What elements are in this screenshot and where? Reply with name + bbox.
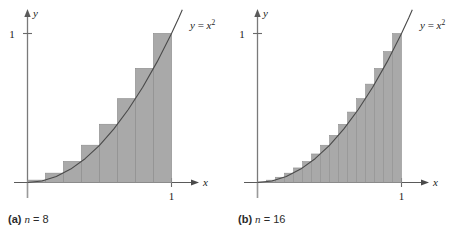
riemann-sum-figure: y x 1 1 y = x2 (0, 0, 461, 235)
bars-a (28, 34, 172, 183)
y-tick-label-a: 1 (9, 28, 15, 40)
bar (393, 34, 402, 183)
y-axis-label-b: y (262, 7, 268, 19)
x-axis-label-b: x (432, 176, 438, 188)
plot-b: y x 1 1 (230, 0, 460, 212)
bar (330, 135, 339, 182)
plot-a: y x 1 1 y = x2 (0, 0, 230, 212)
caption-tag-b: (b) (238, 213, 252, 225)
y-tick-label-b: 1 (239, 28, 245, 40)
bar (321, 145, 330, 182)
caption-b: (b) n = 16 (238, 213, 285, 225)
curve-label-a: y = x2 (189, 18, 216, 31)
y-axis-label-a: y (32, 7, 38, 19)
caption-a: (a) n = 8 (8, 213, 49, 225)
bar (82, 145, 100, 182)
curve-label-b: y = x2 (419, 18, 446, 31)
bars-b (258, 34, 402, 183)
panel-a: y x 1 1 y = x2 (0, 0, 230, 235)
x-axis-arrow-b (421, 179, 429, 185)
y-axis-arrow-a (24, 9, 30, 17)
x-axis-arrow-a (191, 179, 199, 185)
bar (375, 68, 384, 182)
bar (100, 124, 118, 182)
bar (357, 99, 366, 183)
caption-eq-b: = 16 (261, 213, 286, 225)
caption-tag-a: (a) (8, 213, 21, 225)
bar (136, 68, 154, 182)
y-axis-arrow-b (254, 9, 260, 17)
bar (154, 34, 172, 183)
caption-eq-a: = 8 (30, 213, 49, 225)
x-axis-label-a: x (202, 176, 208, 188)
x-tick-label-a: 1 (169, 190, 175, 202)
x-tick-label-b: 1 (399, 190, 405, 202)
bar (384, 52, 393, 183)
panel-b: y x 1 1 (230, 0, 460, 235)
bar (366, 84, 375, 182)
